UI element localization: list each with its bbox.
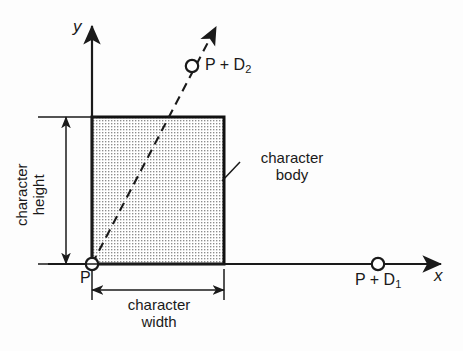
y-axis-label: y xyxy=(73,17,82,36)
point-marker-d2 xyxy=(186,60,198,72)
character-width-label-line2: width xyxy=(141,313,176,330)
point-label-origin: P xyxy=(80,269,91,287)
character-height-label: characterheight xyxy=(14,133,48,257)
character-body-diagram: y x P P + D1 P + D2 characterheight char… xyxy=(0,0,463,351)
character-height-label-line2: height xyxy=(30,174,47,215)
point-label-d2-base: P + D xyxy=(205,56,245,73)
point-label-d2: P + D2 xyxy=(205,56,251,75)
character-height-label-line1: character xyxy=(13,164,30,227)
point-marker-d1 xyxy=(372,258,384,270)
character-body-label-line2: body xyxy=(276,166,309,183)
x-axis-label: x xyxy=(434,266,443,285)
diagram-canvas xyxy=(0,0,463,351)
point-label-d1-base: P + D xyxy=(355,271,395,288)
character-body-label-line1: character xyxy=(261,149,324,166)
point-label-d2-subscript: 2 xyxy=(245,63,251,75)
character-width-label-line1: character xyxy=(128,296,191,313)
point-label-d1: P + D1 xyxy=(355,271,401,290)
character-body-label: characterbody xyxy=(240,150,344,184)
character-width-label: characterwidth xyxy=(98,297,220,331)
point-label-d1-subscript: 1 xyxy=(395,278,401,290)
